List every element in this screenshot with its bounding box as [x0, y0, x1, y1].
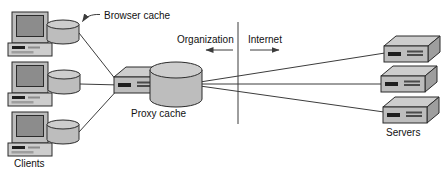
browser-cache-cylinder-icon [47, 20, 79, 44]
clients-label: Clients [14, 158, 45, 169]
proxy-cache-label: Proxy cache [131, 108, 186, 119]
connection-line-proxy-server3 [200, 86, 384, 112]
client-computer-icon [8, 112, 52, 156]
organization-label: Organization [177, 34, 234, 45]
browser-cache-label: Browser cache [104, 10, 171, 21]
client-computer-icon [8, 12, 52, 56]
server-icon [383, 97, 439, 123]
connection-line-client3-proxy [79, 87, 120, 132]
network-cache-diagram: Browser cache Organization Internet Prox… [0, 0, 448, 178]
browser-cache-pointer-arrow [83, 14, 101, 21]
internet-label: Internet [248, 34, 282, 45]
server-icon [384, 36, 440, 62]
proxy-cache-cylinder-icon [150, 62, 202, 107]
browser-cache-cylinder-icon [48, 70, 80, 94]
server-icon [381, 66, 437, 92]
connection-line-proxy-server1 [200, 53, 385, 82]
browser-cache-cylinder-icon [47, 120, 79, 144]
client-computer-icon [8, 62, 52, 106]
diagram-canvas: Browser cache Organization Internet Prox… [0, 0, 448, 178]
servers-label: Servers [386, 127, 420, 138]
